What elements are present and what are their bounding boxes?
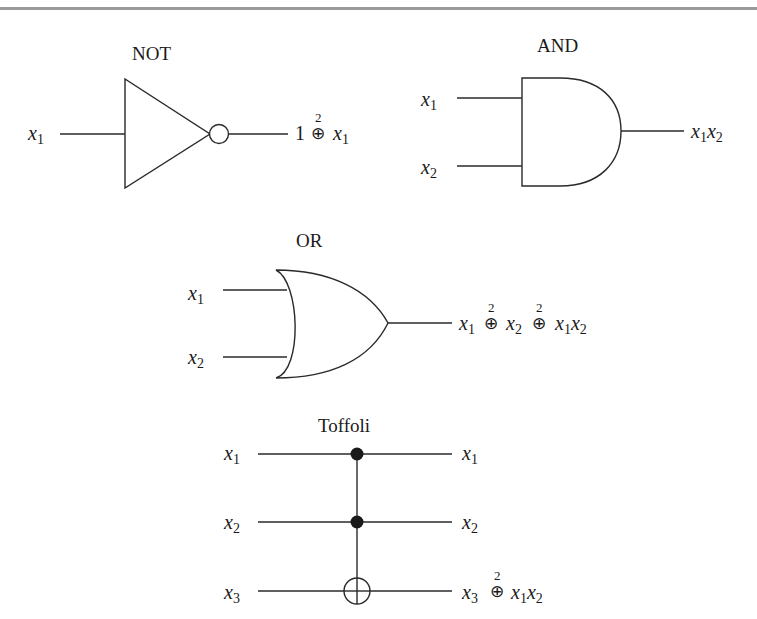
not-gate-group: NOT x1 1 ⊕ 2 x1: [27, 43, 349, 188]
and-output-expression: x1x2: [690, 120, 723, 145]
xor-superscript: 2: [536, 300, 543, 315]
toffoli-gate-title: Toffoli: [318, 415, 370, 436]
toffoli-gate-group: Toffoli x1 x2 x3 x1 x2 x3 ⊕ 2 x1x2: [223, 415, 543, 606]
not-gate-title: NOT: [132, 43, 171, 64]
xor-superscript: 2: [488, 300, 495, 315]
or-output-term-1: x1: [458, 312, 475, 337]
toffoli-input-3-label: x3: [223, 581, 240, 606]
or-gate-title: OR: [296, 230, 323, 251]
or-input-1-label: x1: [187, 282, 204, 307]
and-input-2-label: x2: [420, 156, 437, 181]
not-input-label: x1: [27, 122, 44, 147]
and-gate-body: [522, 78, 621, 186]
and-gate-group: AND x1 x2 x1x2: [420, 35, 723, 186]
xor-superscript: 2: [494, 568, 501, 583]
toffoli-output-3-product: x1x2: [510, 581, 543, 606]
xor-op: ⊕: [532, 313, 546, 333]
toffoli-output-3-label: x3: [461, 581, 478, 606]
xor-op: ⊕: [484, 313, 498, 333]
xor-superscript: 2: [315, 110, 322, 125]
or-output-term-3: x1x2: [554, 312, 587, 337]
and-gate-title: AND: [537, 35, 578, 56]
or-gate-body: [276, 270, 388, 378]
logic-gates-diagram: NOT x1 1 ⊕ 2 x1 AND x1 x2 x1x2: [0, 0, 757, 619]
or-output-term-2: x2: [505, 312, 522, 337]
and-input-1-label: x1: [420, 88, 437, 113]
or-gate-group: OR x1 x2 x1 ⊕ 2 x2 ⊕ 2 x1x2: [187, 230, 587, 378]
xor-op: ⊕: [311, 123, 325, 143]
not-output-var: x1: [332, 122, 349, 147]
control-dot-icon: [351, 516, 364, 529]
toffoli-output-2-label: x2: [461, 511, 478, 536]
control-dot-icon: [351, 448, 364, 461]
toffoli-output-1-label: x1: [461, 442, 478, 467]
xor-op: ⊕: [490, 581, 504, 601]
toffoli-input-2-label: x2: [223, 511, 240, 536]
toffoli-input-1-label: x1: [223, 442, 240, 467]
not-gate-triangle: [125, 79, 210, 188]
not-output-expression: 1: [295, 122, 305, 144]
or-input-2-label: x2: [187, 346, 204, 371]
not-gate-bubble: [210, 125, 229, 144]
